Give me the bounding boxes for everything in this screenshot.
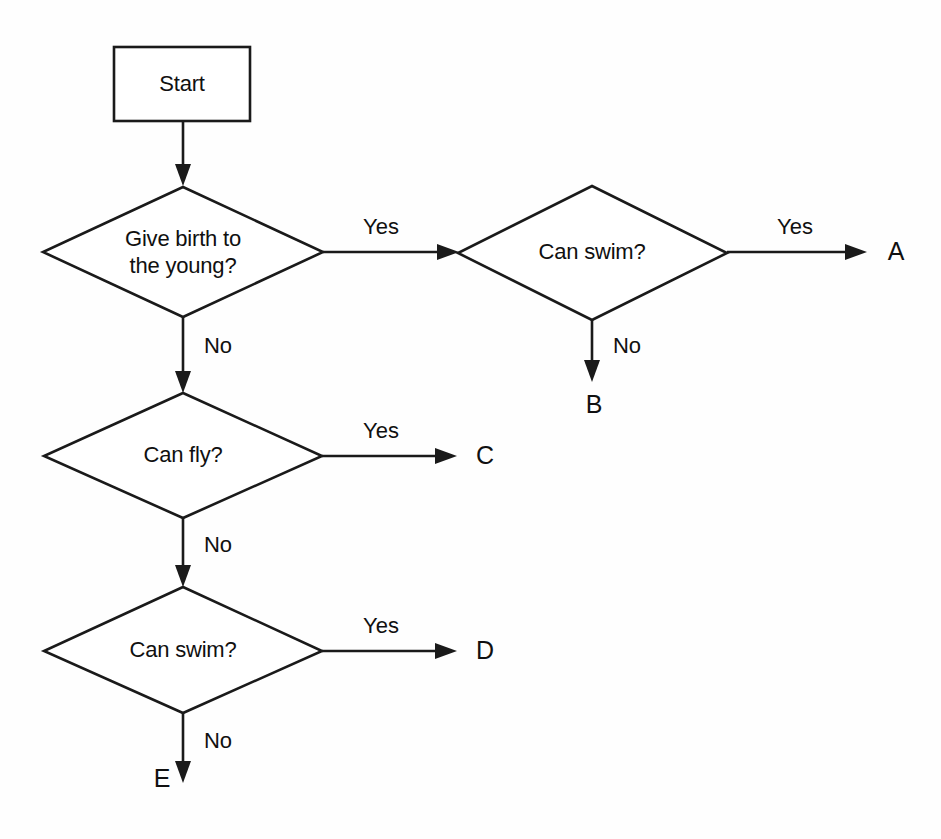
- arrowhead-can-swim-bottom-yes: [435, 643, 457, 659]
- edge-label-can-fly-no: No: [204, 532, 232, 557]
- node-give-birth-label-line1: Give birth to: [125, 226, 241, 251]
- edge-label-can-swim-top-no: No: [613, 333, 641, 358]
- edge-label-give-birth-no: No: [204, 333, 232, 358]
- node-give-birth-label-line2: the young?: [130, 253, 237, 278]
- node-can-swim-top-label: Can swim?: [538, 239, 645, 264]
- node-can-fly-label: Can fly?: [143, 442, 222, 467]
- arrowhead-can-swim-top-no: [584, 360, 600, 382]
- terminal-e: E: [154, 764, 171, 792]
- flowchart-svg: Start Give birth to the young? Yes No Ca…: [0, 0, 941, 839]
- edge-label-give-birth-yes: Yes: [363, 214, 399, 239]
- terminal-d: D: [476, 636, 494, 664]
- flowchart-canvas: Start Give birth to the young? Yes No Ca…: [0, 0, 941, 839]
- arrowhead-give-birth-no: [175, 371, 191, 393]
- arrowhead-give-birth-yes: [437, 244, 459, 260]
- arrowhead-can-swim-bottom-no: [175, 761, 191, 783]
- edge-label-can-swim-bottom-yes: Yes: [363, 613, 399, 638]
- arrowhead-can-swim-top-yes: [845, 244, 867, 260]
- arrowhead-can-fly-yes: [435, 448, 457, 464]
- edge-label-can-fly-yes: Yes: [363, 418, 399, 443]
- node-start-label: Start: [159, 71, 205, 96]
- arrowhead-can-fly-no: [175, 565, 191, 587]
- edge-label-can-swim-top-yes: Yes: [777, 214, 813, 239]
- edge-label-can-swim-bottom-no: No: [204, 728, 232, 753]
- terminal-a: A: [888, 237, 905, 265]
- terminal-c: C: [476, 441, 494, 469]
- terminal-b: B: [586, 390, 603, 418]
- arrowhead-start-to-give-birth: [175, 164, 191, 186]
- node-can-swim-bottom-label: Can swim?: [129, 637, 236, 662]
